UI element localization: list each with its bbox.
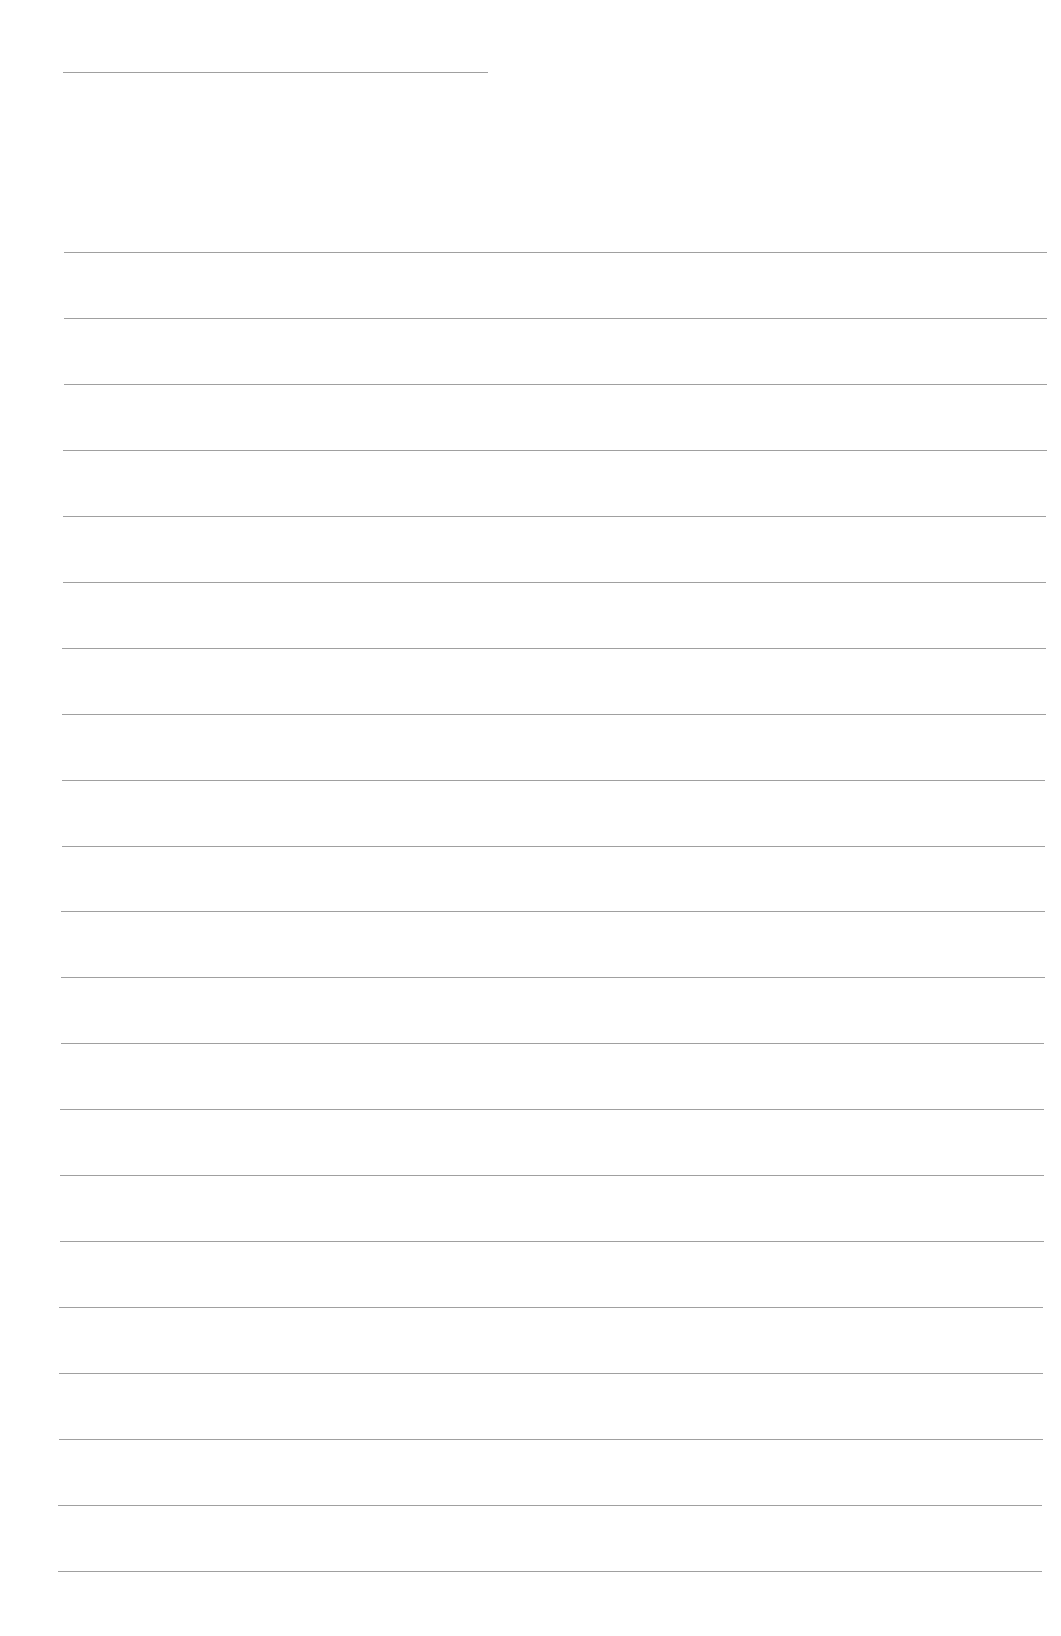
ruled-line — [62, 780, 1045, 781]
ruled-paper-page — [0, 0, 1061, 1636]
ruled-line — [61, 977, 1045, 978]
ruled-line — [63, 516, 1046, 517]
ruled-line — [60, 1175, 1044, 1176]
header-rule — [63, 72, 488, 73]
ruled-line — [63, 582, 1046, 583]
ruled-line — [59, 1373, 1043, 1374]
ruled-line — [64, 252, 1047, 253]
ruled-line — [59, 1439, 1043, 1440]
ruled-line — [64, 318, 1047, 319]
ruled-line — [60, 1109, 1044, 1110]
ruled-line — [58, 1505, 1042, 1506]
ruled-line — [61, 911, 1045, 912]
ruled-line — [59, 1307, 1043, 1308]
ruled-line — [60, 1241, 1044, 1242]
ruled-line — [58, 1571, 1042, 1572]
ruled-line — [61, 1043, 1044, 1044]
ruled-line — [62, 648, 1046, 649]
ruled-line — [62, 846, 1045, 847]
ruled-line — [62, 714, 1046, 715]
ruled-line — [63, 450, 1047, 451]
ruled-line — [64, 384, 1047, 385]
